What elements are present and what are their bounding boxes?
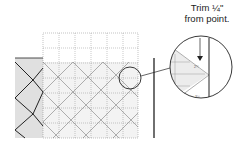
zoom-bottom-label: 3½	[195, 95, 200, 99]
quilt-blocks	[15, 58, 138, 138]
zoom-connector	[141, 68, 170, 76]
zoom-measure-label: 2¼	[194, 65, 199, 69]
zoom-detail: 2¼ 3½	[170, 36, 232, 104]
quilt-trim-diagram: 2¼ 3½	[0, 0, 246, 146]
